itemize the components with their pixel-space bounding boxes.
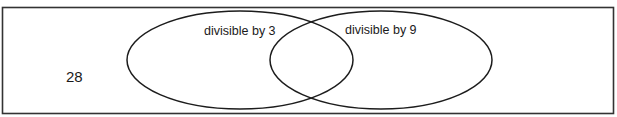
set-label-divisible-by-9: divisible by 9 <box>345 23 417 37</box>
venn-diagram: divisible by 3 divisible by 9 28 <box>0 0 617 117</box>
set-label-divisible-by-3: divisible by 3 <box>204 24 276 38</box>
outside-value-28: 28 <box>66 68 83 85</box>
